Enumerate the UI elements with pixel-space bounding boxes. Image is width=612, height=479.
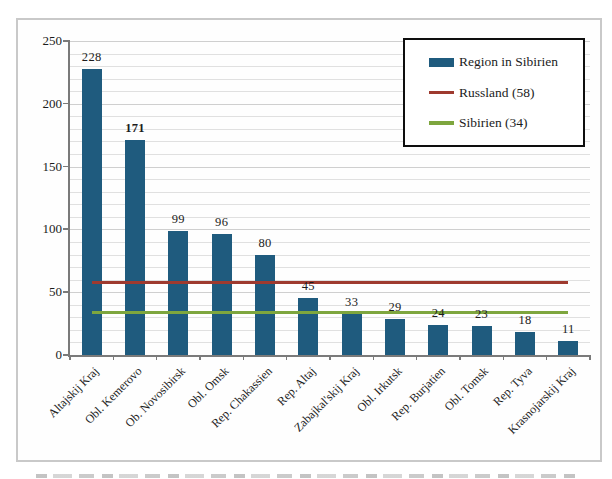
bar-value-label: 18	[503, 313, 546, 328]
x-axis-tick	[156, 355, 158, 360]
y-axis-tick	[63, 228, 70, 230]
x-axis-tick	[286, 355, 288, 360]
legend-entry-region: Region in Sibirien	[429, 54, 583, 70]
x-axis-tick	[329, 355, 331, 360]
x-axis-tick	[373, 355, 375, 360]
bar-Rep. Tyva	[515, 332, 535, 355]
bar-value-label: 45	[287, 279, 330, 294]
bar-value-label: 24	[417, 306, 460, 321]
russland-line-swatch-icon	[429, 91, 454, 95]
y-axis-tick	[63, 291, 70, 293]
bar-Obl. Irkutsk	[385, 319, 405, 355]
bar-Rep. Chakassien	[255, 255, 275, 355]
y-axis-label: 250	[20, 34, 62, 48]
y-axis-label: 150	[20, 160, 62, 174]
scanned-chart-figure: 050100150200250 228Altajskij Kraj171Obl.…	[0, 0, 612, 479]
category-slot: 96Obl. Omsk	[200, 41, 243, 355]
y-axis-label: 100	[20, 222, 62, 236]
x-axis-tick	[243, 355, 245, 360]
legend-label-russland: Russland (58)	[459, 85, 534, 101]
x-axis-tick	[69, 355, 71, 360]
y-axis-label: 200	[20, 97, 62, 111]
reference-line-Russland (58)	[92, 281, 569, 284]
bar-Obl. Tomsk	[472, 326, 492, 355]
legend-label-region: Region in Sibirien	[459, 54, 558, 70]
bar-Ob. Novosibirsk	[168, 231, 188, 355]
cropped-caption-fragment	[36, 474, 576, 478]
legend-entry-sibirien: Sibirien (34)	[429, 115, 583, 131]
y-axis-tick	[63, 166, 70, 168]
bar-value-label: 11	[547, 322, 590, 337]
bar-value-label: 99	[157, 212, 200, 227]
y-axis-label: 50	[20, 285, 62, 299]
category-slot: 80Rep. Chakassien	[243, 41, 286, 355]
legend-entry-russland: Russland (58)	[429, 85, 583, 101]
bar-Obl. Kemerovo	[125, 140, 145, 355]
y-axis-label: 0	[20, 348, 62, 362]
bar-Obl. Omsk	[212, 234, 232, 355]
chart-outer-frame: 050100150200250 228Altajskij Kraj171Obl.…	[16, 18, 602, 462]
bar-Krasnojarskij Kraj	[558, 341, 578, 355]
bar-Rep. Burjatien	[428, 325, 448, 355]
category-slot: 99Ob. Novosibirsk	[157, 41, 200, 355]
category-slot: 171Obl. Kemerovo	[113, 41, 156, 355]
bar-value-label: 33	[330, 295, 373, 310]
bar-value-label: 96	[200, 215, 243, 230]
bar-value-label: 228	[70, 50, 113, 65]
y-axis-tick	[63, 40, 70, 42]
sibirien-line-swatch-icon	[429, 121, 454, 125]
bar-Zabajkal'skij Kraj	[342, 314, 362, 355]
category-slot: 33Zabajkal'skij Kraj	[330, 41, 373, 355]
x-axis-tick	[113, 355, 115, 360]
y-axis-tick	[63, 103, 70, 105]
x-axis-tick	[459, 355, 461, 360]
bar-value-label: 29	[373, 300, 416, 315]
bar-value-label: 171	[113, 121, 156, 136]
x-axis-tick	[503, 355, 505, 360]
x-axis-tick	[416, 355, 418, 360]
bar-value-label: 80	[243, 236, 286, 251]
x-axis-tick	[199, 355, 201, 360]
x-axis-tick	[589, 355, 591, 360]
legend-label-sibirien: Sibirien (34)	[459, 115, 528, 131]
category-slot: 228Altajskij Kraj	[70, 41, 113, 355]
bar-Rep. Altaj	[298, 298, 318, 355]
bar-value-label: 23	[460, 307, 503, 322]
category-slot: 45Rep. Altaj	[287, 41, 330, 355]
legend-box: Region in Sibirien Russland (58) Sibirie…	[403, 38, 585, 147]
x-axis-tick	[546, 355, 548, 360]
x-axis-label: Obl. Tomsk	[442, 364, 492, 414]
bar-swatch-icon	[429, 58, 454, 67]
